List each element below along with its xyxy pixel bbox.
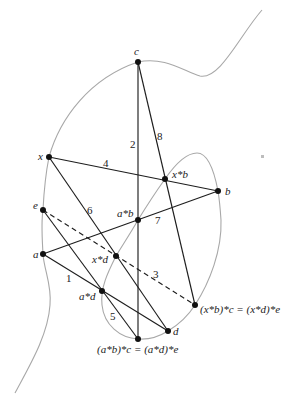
line-7 <box>43 191 218 254</box>
point-d <box>165 328 171 334</box>
line-number-2: 2 <box>130 138 136 150</box>
point-label-xd: x*d <box>91 253 108 265</box>
point-c <box>135 59 141 65</box>
point-label-b: b <box>225 185 231 197</box>
point-label-ab: a*b <box>117 207 134 219</box>
small-square-marker <box>261 155 264 158</box>
point-xd <box>113 253 119 259</box>
point-xb <box>162 176 168 182</box>
point-labels: cxx*bbea*bax*da*d(x*b)*c = (x*d)*ed(a*b)… <box>33 45 280 356</box>
point-label-c: c <box>134 45 139 57</box>
line-number-8: 8 <box>157 130 163 142</box>
line-number-3: 3 <box>153 268 159 280</box>
point-label-abc: (a*b)*c = (a*d)*e <box>97 343 178 356</box>
point-label-ad: a*d <box>79 290 96 302</box>
point-label-xbc: (x*b)*c = (x*d)*e <box>200 303 280 316</box>
point-label-x: x <box>37 150 43 162</box>
point-b <box>215 188 221 194</box>
point-xbc <box>192 302 198 308</box>
line-number-1: 1 <box>66 272 72 284</box>
construction-lines <box>43 62 218 339</box>
point-label-d: d <box>173 325 179 337</box>
line-1 <box>43 254 168 331</box>
line-4 <box>49 157 218 191</box>
line-number-7: 7 <box>155 214 161 226</box>
point-e <box>40 207 46 213</box>
point-ab <box>135 217 141 223</box>
line-3 <box>43 210 195 305</box>
point-x <box>46 154 52 160</box>
point-ad <box>99 288 105 294</box>
point-label-a: a <box>33 248 39 260</box>
line-number-5: 5 <box>110 310 116 322</box>
line-5 <box>43 210 138 339</box>
point-label-xb: x*b <box>171 168 188 180</box>
point-label-e: e <box>33 199 38 211</box>
line-number-4: 4 <box>103 157 109 169</box>
line-6 <box>49 157 168 331</box>
point-a <box>40 251 46 257</box>
elliptic-curve-diagram: 12345678 cxx*bbea*bax*da*d(x*b)*c = (x*d… <box>0 0 293 406</box>
point-abc <box>135 336 141 342</box>
line-8 <box>138 62 195 305</box>
line-number-6: 6 <box>87 204 93 216</box>
